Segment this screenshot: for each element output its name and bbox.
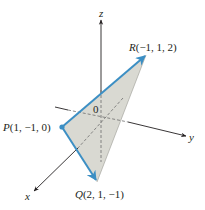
- point-q-label: Q(2, 1, −1): [75, 188, 124, 201]
- point-r-coords: (−1, 1, 2): [136, 41, 177, 54]
- z-axis-label: z: [98, 7, 104, 19]
- origin-label: 0: [93, 103, 99, 115]
- x-axis: [34, 148, 78, 191]
- y-axis-negative: [55, 107, 68, 110]
- point-p-coords: (1, −1, 0): [10, 121, 51, 134]
- y-axis: [128, 122, 186, 136]
- point-q-name: Q: [75, 188, 83, 200]
- point-p-label: P(1, −1, 0): [2, 121, 51, 134]
- point-p-marker: [59, 124, 64, 129]
- triangle-pqr-diagram: z y x 0 R(−1, 1, 2) P(1, −1, 0) Q(2, 1, …: [0, 0, 205, 210]
- x-axis-label: x: [24, 190, 30, 202]
- point-r-label: R(−1, 1, 2): [128, 41, 177, 54]
- triangle-face: [62, 55, 146, 182]
- point-q-coords: (2, 1, −1): [83, 188, 124, 201]
- y-axis-label: y: [188, 131, 194, 143]
